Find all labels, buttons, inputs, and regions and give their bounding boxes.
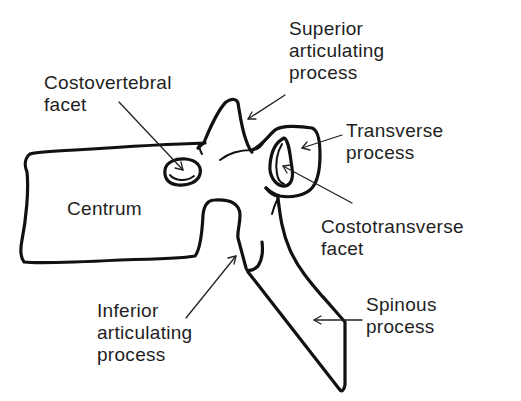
- leader-superior-articulating: [248, 95, 285, 119]
- pedicle-curve: [220, 140, 265, 160]
- label-line: process: [366, 316, 437, 338]
- label-line: Superior: [289, 18, 384, 40]
- label-line: Inferior: [97, 300, 192, 322]
- label-line: Spinous: [366, 294, 437, 316]
- label-line: facet: [321, 238, 464, 260]
- label-inferior-articulating-process: Inferior articulating process: [97, 300, 192, 366]
- costovertebral-facet-inner: [170, 175, 194, 180]
- label-transverse-process: Transverse process: [346, 120, 443, 164]
- label-centrum: Centrum: [67, 198, 142, 220]
- label-line: Costovertebral: [44, 72, 172, 94]
- label-costotransverse-facet: Costotransverse facet: [321, 216, 464, 260]
- label-spinous-process: Spinous process: [366, 294, 437, 338]
- spinous-upper-tick: [272, 198, 278, 214]
- inferior-process-right-edge: [247, 242, 262, 270]
- label-line: process: [346, 142, 443, 164]
- costotransverse-facet-inner: [276, 144, 284, 184]
- lamina-left-edge: [266, 188, 278, 196]
- leader-inferior-articulating: [186, 256, 236, 318]
- label-line: process: [289, 62, 384, 84]
- label-line: Transverse: [346, 120, 443, 142]
- label-line: Costotransverse: [321, 216, 464, 238]
- leader-transverse-process: [302, 135, 342, 148]
- label-line: articulating: [289, 40, 384, 62]
- label-line: process: [97, 344, 192, 366]
- label-line: facet: [44, 94, 172, 116]
- costovertebral-facet-outline: [165, 159, 201, 185]
- label-superior-articulating-process: Superior articulating process: [289, 18, 384, 84]
- label-line: articulating: [97, 322, 192, 344]
- label-costovertebral-facet: Costovertebral facet: [44, 72, 172, 116]
- arrowhead-superior: [248, 112, 256, 119]
- label-line: Centrum: [67, 198, 142, 220]
